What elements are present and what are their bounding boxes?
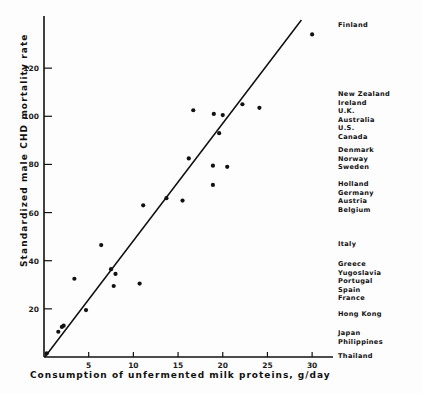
country-label: Norway (338, 155, 423, 164)
data-point (164, 196, 168, 200)
country-group: New ZealandIrelandU.K.AustraliaU.S.Canad… (338, 90, 423, 142)
x-tick-label: 10 (128, 361, 138, 370)
data-point (138, 281, 142, 285)
data-point (240, 102, 244, 106)
country-label: Philippines (338, 338, 423, 347)
country-group: Finland (338, 21, 423, 30)
data-point (62, 324, 66, 328)
country-label-panel: FinlandNew ZealandIrelandU.K.AustraliaU.… (338, 0, 423, 393)
country-label: Japan (338, 329, 423, 338)
country-label: U.S. (338, 124, 423, 133)
country-label: Greece (338, 260, 423, 269)
data-point (141, 203, 145, 207)
data-point (187, 156, 191, 160)
data-point (191, 108, 195, 112)
country-label: Ireland (338, 99, 423, 108)
country-label: Italy (338, 240, 423, 249)
data-point (221, 113, 225, 117)
country-group: JapanPhilippines (338, 329, 423, 346)
data-point (45, 351, 49, 355)
data-point (113, 272, 117, 276)
country-label: Austria (338, 197, 423, 206)
x-tick-label: 20 (218, 361, 228, 370)
data-point (217, 131, 221, 135)
data-point (212, 112, 216, 116)
country-label: Thailand (338, 352, 423, 361)
country-label: Finland (338, 21, 423, 30)
country-group: DenmarkNorwaySweden (338, 146, 423, 172)
y-axis-title: Standardized male CHD mortality rate (19, 47, 29, 267)
y-tick-label: 60 (29, 209, 39, 218)
data-point (211, 183, 215, 187)
country-label: Holland (338, 180, 423, 189)
country-group: HollandGermanyAustriaBelgium (338, 180, 423, 214)
country-label: Australia (338, 116, 423, 125)
data-point (99, 243, 103, 247)
country-label: New Zealand (338, 90, 423, 99)
y-tick-label: 20 (29, 305, 39, 314)
x-tick-label: 5 (86, 361, 91, 370)
data-point (56, 330, 60, 334)
country-label: Yugoslavia (338, 269, 423, 278)
chart-figure: 5101520253020406080100120 Standardized m… (0, 0, 423, 393)
regression-line (45, 20, 302, 357)
country-label: Hong Kong (338, 310, 423, 319)
country-label: Germany (338, 189, 423, 198)
country-group: Hong Kong (338, 310, 423, 319)
x-tick-label: 30 (307, 361, 317, 370)
y-tick-label: 40 (29, 257, 39, 266)
country-group: Thailand (338, 352, 423, 361)
x-axis-title: Consumption of unfermented milk proteins… (30, 370, 330, 380)
x-tick-label: 15 (173, 361, 183, 370)
country-label: Spain (338, 286, 423, 295)
country-label: Portugal (338, 277, 423, 286)
data-point (180, 198, 184, 202)
data-point (112, 284, 116, 288)
country-group: GreeceYugoslaviaPortugalSpainFrance (338, 260, 423, 303)
data-point (225, 165, 229, 169)
country-label: Belgium (338, 206, 423, 215)
country-label: France (338, 294, 423, 303)
data-point (84, 308, 88, 312)
country-label: Canada (338, 133, 423, 142)
data-point (211, 164, 215, 168)
country-label: Denmark (338, 146, 423, 155)
country-label: U.K. (338, 107, 423, 116)
y-tick-label: 80 (29, 160, 39, 169)
data-point (257, 106, 261, 110)
data-point (72, 277, 76, 281)
country-label: Sweden (338, 163, 423, 172)
data-point (310, 32, 314, 36)
country-group: Italy (338, 240, 423, 249)
data-point (109, 267, 113, 271)
x-tick-label: 25 (262, 361, 272, 370)
